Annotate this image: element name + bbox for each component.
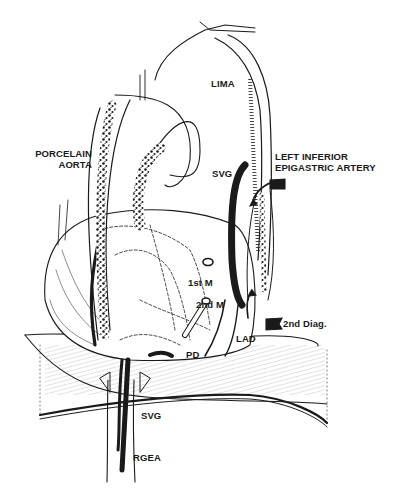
liea-clip-icon xyxy=(270,179,285,189)
label-second-diag: 2nd Diag. xyxy=(283,318,327,329)
label-pd: PD xyxy=(186,349,199,360)
label-porcelain-aorta-line1: PORCELAIN xyxy=(31,148,92,159)
second-diag-clip-icon xyxy=(266,318,282,330)
label-lima: LIMA xyxy=(211,78,235,89)
label-liea-line2: EPIGASTRIC ARTERY xyxy=(275,162,376,173)
label-svg-lower: SVG xyxy=(141,410,161,421)
label-second-marginal: 2nd M xyxy=(196,299,224,310)
cabg-illustration xyxy=(0,0,397,498)
label-first-marginal: 1st M xyxy=(188,277,213,288)
heart xyxy=(45,210,255,361)
label-rgea: RGEA xyxy=(133,452,161,463)
label-svg-upper: SVG xyxy=(212,168,232,179)
label-liea-line1: LEFT INFERIOR xyxy=(275,151,348,162)
label-porcelain-aorta-line2: AORTA xyxy=(31,159,92,170)
label-lad: LAD xyxy=(236,333,256,344)
